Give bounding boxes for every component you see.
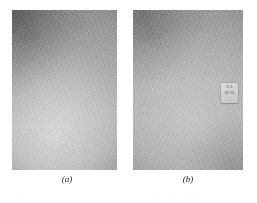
- specimen-label-line-2: IIID 95: [225, 90, 235, 95]
- panel-a-vignette: [12, 10, 117, 170]
- specimen-label-sticker: 8 5 IIID 95: [221, 83, 238, 103]
- figure-panel-a: [12, 10, 117, 170]
- figure-caption-clipped: the specimen surface before and after tr…: [11, 193, 247, 203]
- figure-panel-b: 8 5 IIID 95: [133, 10, 243, 170]
- panel-caption-b: (b): [177, 174, 199, 184]
- specimen-label-line-1: 8 5: [226, 85, 232, 90]
- panel-caption-a: (a): [56, 174, 78, 184]
- figure-caption-text: the specimen surface before and after tr…: [11, 193, 247, 195]
- figure-page: 8 5 IIID 95 (a) (b) the specimen surface…: [0, 0, 257, 203]
